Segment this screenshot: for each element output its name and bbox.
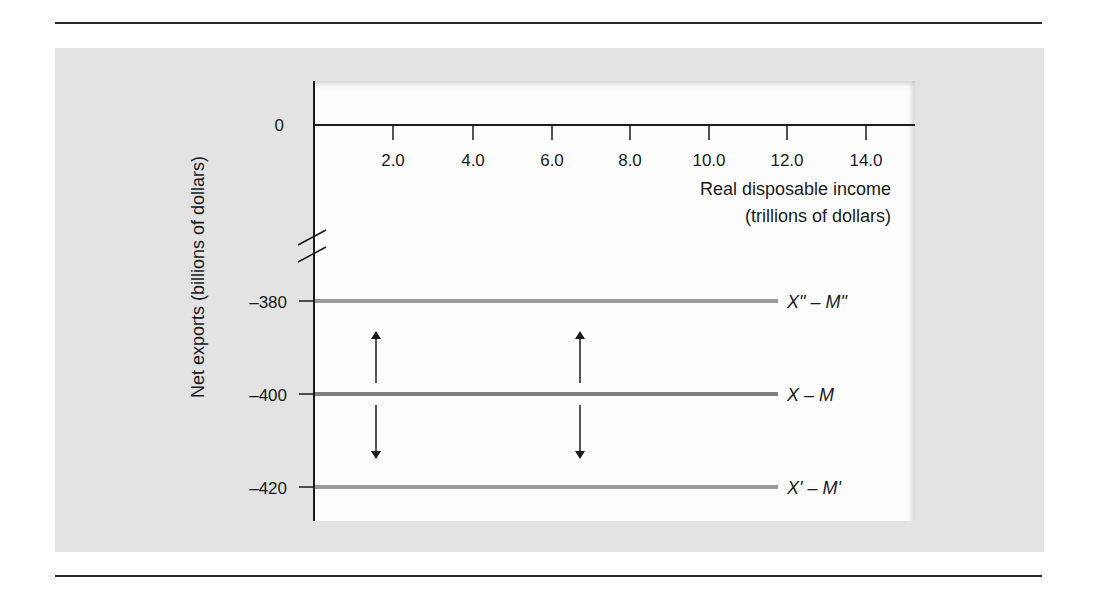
axis-break-icon <box>298 230 326 262</box>
y-ticks <box>299 301 314 487</box>
svg-text:14.0: 14.0 <box>849 151 882 170</box>
svg-text:10.0: 10.0 <box>692 151 725 170</box>
svg-text:6.0: 6.0 <box>540 151 564 170</box>
label-x-m: X – M <box>786 385 834 405</box>
svg-text:–380: –380 <box>249 293 287 312</box>
label-x2-m2: X" – M" <box>786 292 848 312</box>
svg-text:–400: –400 <box>249 386 287 405</box>
svg-text:–420: –420 <box>249 479 287 498</box>
label-x1-m1: X' – M' <box>786 478 841 498</box>
svg-text:0: 0 <box>275 116 284 135</box>
x-axis-title-line1: Real disposable income <box>700 179 891 199</box>
svg-text:2.0: 2.0 <box>381 151 405 170</box>
y-axis-title: Net exports (billions of dollars) <box>188 156 208 398</box>
svg-text:8.0: 8.0 <box>618 151 642 170</box>
x-tick-labels: 2.0 4.0 6.0 8.0 10.0 12.0 14.0 <box>381 151 882 170</box>
svg-text:12.0: 12.0 <box>770 151 803 170</box>
x-axis-title-line2: (trillions of dollars) <box>745 206 891 226</box>
svg-text:4.0: 4.0 <box>461 151 485 170</box>
x-ticks <box>393 125 866 140</box>
net-exports-chart: 2.0 4.0 6.0 8.0 10.0 12.0 14.0 Real disp… <box>0 0 1101 595</box>
y-tick-labels: 0 –380 –400 –420 <box>249 116 287 498</box>
